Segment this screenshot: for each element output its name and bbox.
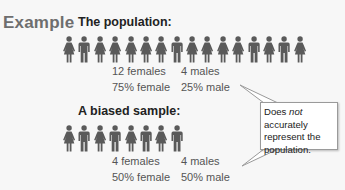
callout-text-before: Does [264, 106, 289, 117]
callout-emphasis: not [289, 106, 302, 117]
callout-pointer-up [240, 85, 278, 103]
callout-box: Does not accurately represent the popula… [260, 102, 338, 150]
callout-text-after: accurately represent the population. [264, 119, 321, 155]
callout-pointers [0, 0, 345, 190]
